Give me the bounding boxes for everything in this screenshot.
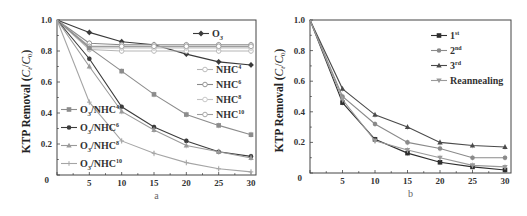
circle-marker-icon: [470, 155, 475, 160]
x-tick-label: 10: [117, 178, 127, 188]
y-tick-label: 0.2: [41, 139, 53, 149]
legend-label: NHC4: [216, 64, 241, 75]
y-tick-label: 0.8: [41, 46, 53, 56]
legend-label: 3rd: [450, 60, 462, 71]
square-marker-icon: [437, 33, 442, 38]
legend-label: Reannealing: [450, 75, 503, 86]
x-tick-label: 15: [150, 178, 160, 188]
legend-item-2nd: 2nd: [431, 45, 462, 56]
y-tick-label: 1.0: [41, 15, 53, 25]
diamond-marker-icon: [248, 62, 254, 68]
square-marker-icon: [67, 107, 72, 112]
y-axis-title: KTP Removal (Ct/C0): [20, 49, 34, 153]
legend-item-reannealing: Reannealing: [431, 75, 503, 86]
open-circle-marker-icon: [203, 97, 208, 102]
legend-item-nhc6: NHC6: [197, 79, 241, 90]
legend-item-1st: 1st: [431, 30, 459, 41]
diamond-marker-icon: [86, 30, 92, 36]
legend-label: O3/NHC8: [80, 140, 119, 153]
legend-item-nhc8: NHC8: [197, 94, 241, 105]
origin-label: 0: [298, 173, 303, 183]
legend-label: O3/NHC4: [80, 104, 119, 117]
x-tick-label: 10: [371, 176, 381, 186]
legend-label: 2nd: [450, 45, 462, 56]
legend-item-3rd: 3rd: [431, 60, 462, 71]
square-marker-icon: [249, 132, 254, 137]
x-tick-label: 15: [403, 176, 413, 186]
origin-label: 0: [45, 175, 50, 185]
legend-item-o3-nhc4: O3/NHC4: [61, 104, 119, 117]
legend-label: O3: [212, 28, 224, 41]
x-tick-label: 20: [436, 176, 446, 186]
legend-item-o3-nhc6: O3/NHC6: [61, 122, 119, 135]
y-tick-label: 0.2: [294, 137, 306, 147]
circle-marker-icon: [438, 146, 443, 151]
legend-label: 1st: [450, 30, 459, 41]
legend-item-o3-nhc8: O3/NHC8: [61, 140, 119, 153]
circle-marker-icon: [87, 56, 92, 61]
x-tick-label: 30: [501, 176, 511, 186]
y-tick-label: 0.6: [294, 76, 306, 86]
x-axis-title: b: [408, 188, 413, 199]
x-tick-label: 5: [340, 176, 345, 186]
x-axis-title: a: [154, 190, 159, 201]
x-tick-label: 30: [247, 178, 257, 188]
data-series-2nd: [310, 20, 507, 161]
series-line: [57, 20, 251, 45]
series-line: [310, 20, 505, 158]
circle-marker-icon: [67, 125, 72, 130]
legend-label: O3/NHC6: [80, 122, 119, 135]
y-tick-label: 0.8: [294, 46, 306, 56]
chart-panel-b: 510152025300.20.40.60.81.00KTP Removal (…: [273, 15, 511, 199]
legend-label: NHC8: [216, 94, 241, 105]
square-marker-icon: [184, 112, 189, 117]
open-circle-marker-icon: [119, 44, 124, 49]
chart-panel-a: 510152025300.20.40.60.81.00KTP Removal (…: [20, 15, 256, 201]
legend-label: O3/NHC10: [80, 158, 122, 171]
legend-label: NHC10: [216, 109, 244, 120]
legend-item-nhc4: NHC4: [197, 64, 241, 75]
y-tick-label: 0.6: [41, 77, 53, 87]
square-marker-icon: [216, 123, 221, 128]
open-circle-marker-icon: [249, 44, 254, 49]
y-tick-label: 0.4: [294, 107, 306, 117]
x-tick-label: 25: [214, 178, 224, 188]
y-axis-title: KTP Removal (Ct/C0): [273, 48, 287, 152]
figure-canvas: 510152025300.20.40.60.81.00KTP Removal (…: [0, 0, 527, 216]
circle-marker-icon: [437, 48, 442, 53]
x-tick-label: 25: [468, 176, 478, 186]
open-circle-marker-icon: [203, 67, 208, 72]
y-tick-label: 0.4: [41, 108, 53, 118]
y-tick-label: 1.0: [294, 15, 306, 25]
open-circle-marker-icon: [203, 112, 208, 117]
circle-marker-icon: [503, 155, 508, 160]
circle-marker-icon: [373, 122, 378, 127]
open-circle-marker-icon: [216, 44, 221, 49]
open-circle-marker-icon: [184, 44, 189, 49]
x-tick-label: 20: [182, 178, 192, 188]
legend-item-o3: O3: [193, 28, 224, 41]
legend-label: NHC6: [216, 79, 241, 90]
legend-item-nhc10: NHC10: [197, 109, 244, 120]
x-tick-label: 5: [87, 178, 92, 188]
diamond-marker-icon: [198, 31, 204, 37]
triangle-marker-icon: [340, 86, 345, 91]
legend-item-o3-nhc10: O3/NHC10: [61, 158, 122, 171]
open-circle-marker-icon: [203, 82, 208, 87]
square-marker-icon: [119, 69, 124, 74]
open-circle-marker-icon: [152, 44, 157, 49]
circle-marker-icon: [184, 139, 189, 144]
circle-marker-icon: [405, 140, 410, 145]
square-marker-icon: [152, 92, 157, 97]
square-marker-icon: [87, 46, 92, 51]
